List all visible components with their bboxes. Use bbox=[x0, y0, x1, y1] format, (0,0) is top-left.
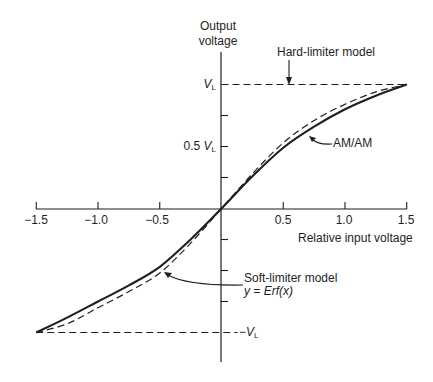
neg-prefix: − bbox=[239, 325, 246, 339]
y-axis-title-line1: Output bbox=[200, 19, 236, 33]
x-axis-title: Relative input voltage bbox=[298, 231, 413, 245]
hard-limiter-label: Hard-limiter model bbox=[277, 45, 375, 59]
vl-main: V bbox=[204, 77, 212, 91]
x-tick-label: 0.5 bbox=[275, 213, 292, 227]
soft-limiter-arrow bbox=[168, 275, 243, 285]
x-tick-label: −1.5 bbox=[24, 213, 48, 227]
erf-formula-label: y = Erf(x) bbox=[244, 284, 293, 298]
am-am-label: AM/AM bbox=[333, 136, 372, 150]
y-tick-label-vl: VL bbox=[204, 77, 216, 95]
vl-sub: L bbox=[212, 83, 216, 92]
y-tick-label-neg-vl: −VL bbox=[239, 325, 258, 343]
x-tick-label: −1.0 bbox=[84, 213, 108, 227]
soft-limiter-label: Soft-limiter model bbox=[244, 271, 337, 285]
x-tick-label: 1.0 bbox=[336, 213, 353, 227]
y-axis-title-line2: voltage bbox=[199, 34, 238, 48]
annotation-arrows bbox=[164, 60, 332, 285]
vl-sub: L bbox=[212, 145, 216, 154]
vl-main: V bbox=[204, 139, 212, 153]
vl-main: V bbox=[246, 325, 254, 339]
hard-limiter-arrowhead-icon bbox=[286, 77, 292, 85]
x-tick-label: −0.5 bbox=[145, 213, 169, 227]
am-am-arrow bbox=[312, 139, 332, 144]
vl-sub: L bbox=[254, 331, 258, 340]
half-prefix: 0.5 bbox=[184, 139, 204, 153]
soft-limiter-arrowhead-icon bbox=[164, 272, 172, 278]
x-tick-label: 1.5 bbox=[398, 213, 415, 227]
y-tick-label-half-vl: 0.5 VL bbox=[184, 139, 216, 157]
